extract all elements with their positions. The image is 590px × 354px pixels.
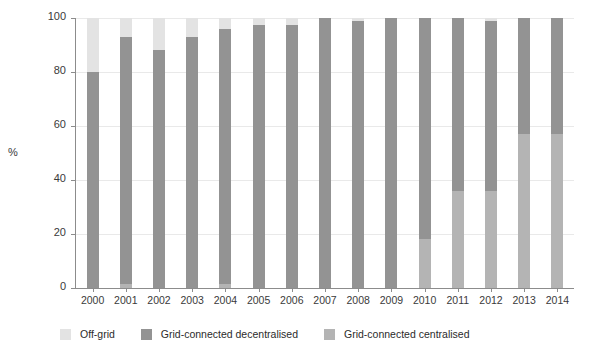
y-axis-line <box>75 18 76 289</box>
x-tick-mark <box>325 288 326 292</box>
bar-segment[interactable] <box>452 191 464 288</box>
bar-segment[interactable] <box>153 50 165 288</box>
bar-segment[interactable] <box>485 21 497 191</box>
bar-segment[interactable] <box>419 18 431 239</box>
bar-group[interactable] <box>186 18 198 288</box>
bar-segment[interactable] <box>319 18 331 288</box>
bar-segment[interactable] <box>485 191 497 288</box>
x-tick-mark <box>93 288 94 292</box>
bar-segment[interactable] <box>120 18 132 37</box>
x-tick-mark <box>225 288 226 292</box>
legend-item[interactable]: Grid-connected decentralised <box>141 328 298 340</box>
legend-label: Grid-connected centralised <box>344 328 469 340</box>
bar-segment[interactable] <box>253 25 265 288</box>
bar-segment[interactable] <box>452 18 464 191</box>
bar-segment[interactable] <box>286 25 298 288</box>
y-axis-title: % <box>8 146 18 158</box>
bar-segment[interactable] <box>286 18 298 25</box>
bar-segment[interactable] <box>253 18 265 25</box>
bar-segment[interactable] <box>518 18 530 134</box>
legend-item[interactable]: Grid-connected centralised <box>324 328 469 340</box>
y-tick-mark <box>71 126 76 127</box>
bar-group[interactable] <box>153 18 165 288</box>
bar-segment[interactable] <box>551 18 563 134</box>
bar-segment[interactable] <box>352 18 364 21</box>
bar-group[interactable] <box>419 18 431 288</box>
bar-group[interactable] <box>485 18 497 288</box>
x-tick-mark <box>391 288 392 292</box>
x-tick-mark <box>425 288 426 292</box>
y-tick-label: 60 <box>28 118 66 130</box>
x-tick-mark <box>358 288 359 292</box>
stacked-bar-chart-figure: % 020406080100 2000200120022003200420052… <box>0 0 590 354</box>
chart-legend: Off-gridGrid-connected decentralisedGrid… <box>60 324 495 344</box>
bar-group[interactable] <box>286 18 298 288</box>
y-tick-label: 0 <box>28 280 66 292</box>
legend-swatch-decentralised <box>141 329 152 340</box>
bar-segment[interactable] <box>120 37 132 284</box>
y-tick-label: 20 <box>28 226 66 238</box>
bar-group[interactable] <box>319 18 331 288</box>
bar-segment[interactable] <box>186 37 198 288</box>
y-tick-label: 80 <box>28 64 66 76</box>
x-tick-mark <box>192 288 193 292</box>
plot-area: 020406080100 200020012002200320042005200… <box>76 18 574 288</box>
legend-swatch-centralised <box>324 329 335 340</box>
x-tick-mark <box>557 288 558 292</box>
y-tick-mark <box>71 180 76 181</box>
y-tick-mark <box>71 18 76 19</box>
bar-segment[interactable] <box>385 18 397 288</box>
y-tick-mark <box>71 72 76 73</box>
bar-group[interactable] <box>120 18 132 288</box>
bar-segment[interactable] <box>186 18 198 37</box>
bar-segment[interactable] <box>352 21 364 288</box>
bar-group[interactable] <box>518 18 530 288</box>
y-tick-mark <box>71 234 76 235</box>
bar-segment[interactable] <box>153 18 165 50</box>
x-tick-mark <box>159 288 160 292</box>
bar-segment[interactable] <box>518 134 530 288</box>
legend-label: Off-grid <box>80 328 115 340</box>
legend-swatch-off-grid <box>60 329 71 340</box>
y-tick-label: 40 <box>28 172 66 184</box>
bar-segment[interactable] <box>219 29 231 284</box>
x-tick-label: 2014 <box>534 294 580 306</box>
legend-label: Grid-connected decentralised <box>161 328 298 340</box>
bar-group[interactable] <box>551 18 563 288</box>
bar-segment[interactable] <box>419 239 431 288</box>
bar-segment[interactable] <box>87 72 99 288</box>
bar-group[interactable] <box>385 18 397 288</box>
bar-group[interactable] <box>87 18 99 288</box>
bar-group[interactable] <box>253 18 265 288</box>
bar-segment[interactable] <box>87 18 99 72</box>
bar-group[interactable] <box>352 18 364 288</box>
bar-group[interactable] <box>452 18 464 288</box>
bar-group[interactable] <box>219 18 231 288</box>
x-tick-mark <box>292 288 293 292</box>
x-tick-mark <box>491 288 492 292</box>
x-tick-mark <box>259 288 260 292</box>
bar-segment[interactable] <box>485 18 497 21</box>
x-tick-mark <box>524 288 525 292</box>
x-tick-mark <box>126 288 127 292</box>
x-tick-mark <box>458 288 459 292</box>
bar-segment[interactable] <box>219 18 231 29</box>
legend-item[interactable]: Off-grid <box>60 328 115 340</box>
bar-segment[interactable] <box>551 134 563 288</box>
y-tick-mark <box>71 288 76 289</box>
y-tick-label: 100 <box>28 10 66 22</box>
